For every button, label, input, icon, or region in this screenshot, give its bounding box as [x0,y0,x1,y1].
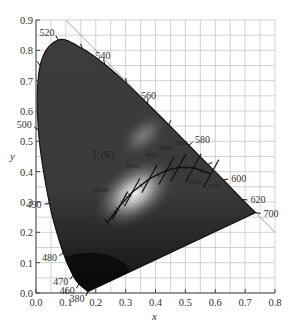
cct-label: 3000 [159,144,172,151]
wavelength-label: 700 [263,208,278,219]
y-tick-label: 0.5 [20,136,33,147]
y-tick-label: 0.4 [20,167,34,178]
wavelength-tick [76,284,79,288]
cie-chromaticity-chart: 0.00.10.20.30.40.50.60.70.80.00.10.20.30… [0,0,290,328]
y-tick-label: 0.0 [20,288,33,299]
x-tick-label: 0.6 [209,297,222,308]
cct-label: 2500 [175,139,188,146]
cct-label: 4000 [146,151,159,158]
x-tick-label: 0.7 [239,297,252,308]
y-tick-label: 0.2 [20,227,33,238]
x-tick-label: 0.3 [119,297,132,308]
cct-label: 2000 [187,178,200,185]
x-tick-label: 0.5 [179,297,192,308]
y-tick-label: 0.8 [20,45,33,56]
x-axis-title: x [151,310,157,322]
wavelength-tick [59,253,63,256]
wavelength-label: 470 [53,276,68,287]
wavelength-label: 580 [195,134,210,145]
y-tick-label: 0.6 [20,106,33,117]
wavelength-tick [44,204,49,205]
wavelength-tick [86,291,88,296]
wavelength-tick [223,179,228,180]
wavelength-label: 490 [27,199,42,210]
wavelength-tick [56,36,58,40]
wavelength-label: 520 [40,27,55,38]
wavelength-tick [208,163,213,165]
wavelength-label: 620 [250,194,265,205]
y-tick-label: 0.7 [20,76,33,87]
wavelength-label: 500 [17,119,32,130]
wavelength-tick [189,142,193,145]
y-tick-label: 0.9 [20,15,33,26]
y-axis-title: y [9,150,15,162]
wavelength-tick [70,275,73,279]
cct-label: 1500 [207,182,220,189]
wavelength-label: 540 [95,50,110,61]
y-tick-label: 0.1 [20,258,33,269]
cct-label: 6000 [126,162,139,169]
wavelength-label: 480 [42,252,57,263]
wavelength-tick [37,61,40,65]
wavelength-label: 600 [231,173,246,184]
x-tick-label: 0.8 [268,297,281,308]
x-tick-label: 0.4 [149,297,163,308]
cct-label: 10000 [92,186,108,193]
wavelength-label: 560 [141,90,156,101]
x-tick-label: 0.2 [89,297,102,308]
spectral-gamut [37,39,255,296]
